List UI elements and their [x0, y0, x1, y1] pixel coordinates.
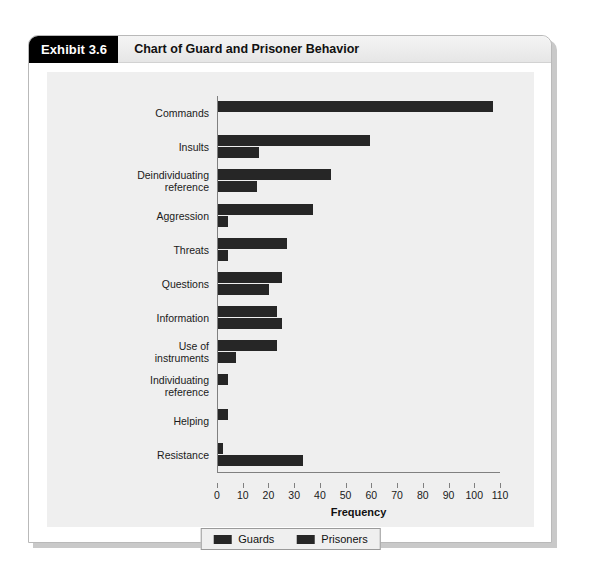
x-tick-mark: [500, 483, 501, 488]
chart-panel: CommandsInsultsDeindividuating reference…: [47, 72, 534, 527]
bar-row: Questions: [47, 267, 534, 301]
category-label: Information: [59, 312, 209, 324]
x-tick-mark: [346, 483, 347, 488]
x-tick-mark: [397, 483, 398, 488]
bar-prisoners: [218, 216, 228, 227]
bar-group: [218, 96, 518, 130]
x-tick-label: 30: [288, 489, 300, 501]
x-tick-mark: [371, 483, 372, 488]
x-tick-label: 20: [263, 489, 275, 501]
guards-swatch-icon: [213, 535, 231, 544]
x-tick-label: 50: [340, 489, 352, 501]
x-tick-label: 100: [466, 489, 484, 501]
category-label: Resistance: [59, 449, 209, 461]
x-tick-label: 10: [237, 489, 249, 501]
legend-label-prisoners: Prisoners: [321, 533, 367, 545]
bar-rows-container: CommandsInsultsDeindividuating reference…: [47, 96, 534, 472]
chart-legend: Guards Prisoners: [200, 528, 381, 550]
legend-item-guards: Guards: [213, 533, 274, 545]
bar-row: Information: [47, 301, 534, 335]
exhibit-page: Exhibit 3.6 Chart of Guard and Prisoner …: [0, 0, 596, 583]
bar-group: [218, 199, 518, 233]
legend-label-guards: Guards: [238, 533, 274, 545]
bar-row: Resistance: [47, 438, 534, 472]
category-label: Use of instruments: [59, 340, 209, 364]
exhibit-header: Exhibit 3.6 Chart of Guard and Prisoner …: [29, 36, 551, 63]
bar-guards: [218, 204, 313, 215]
category-label: Helping: [59, 415, 209, 427]
bar-group: [218, 438, 518, 472]
prisoners-swatch-icon: [296, 535, 314, 544]
bar-group: [218, 369, 518, 403]
bar-prisoners: [218, 250, 228, 261]
bar-row: Helping: [47, 404, 534, 438]
bar-group: [218, 130, 518, 164]
bar-group: [218, 267, 518, 301]
category-label: Individuating reference: [59, 374, 209, 398]
bar-prisoners: [218, 352, 236, 363]
x-tick-label: 110: [492, 489, 509, 501]
x-axis-label: Frequency: [217, 506, 500, 518]
bar-row: Use of instruments: [47, 335, 534, 369]
bar-row: Aggression: [47, 199, 534, 233]
x-tick-label: 80: [417, 489, 429, 501]
bar-guards: [218, 101, 493, 112]
bar-guards: [218, 135, 370, 146]
category-label: Questions: [59, 278, 209, 290]
x-tick-label: 40: [314, 489, 326, 501]
x-tick-mark: [243, 483, 244, 488]
bar-guards: [218, 409, 228, 420]
x-tick-label: 0: [214, 489, 220, 501]
bar-prisoners: [218, 147, 259, 158]
exhibit-number-tab: Exhibit 3.6: [29, 36, 118, 63]
category-label: Deindividuating reference: [59, 169, 209, 193]
bar-guards: [218, 340, 277, 351]
bar-row: Threats: [47, 233, 534, 267]
bar-group: [218, 164, 518, 198]
x-tick-label: 70: [391, 489, 403, 501]
exhibit-card: Exhibit 3.6 Chart of Guard and Prisoner …: [28, 35, 552, 543]
bar-guards: [218, 306, 277, 317]
bar-row: Deindividuating reference: [47, 164, 534, 198]
bar-group: [218, 404, 518, 438]
x-tick-mark: [294, 483, 295, 488]
bar-group: [218, 335, 518, 369]
x-tick-label: 90: [443, 489, 455, 501]
x-tick-mark: [474, 483, 475, 488]
bar-prisoners: [218, 318, 282, 329]
exhibit-title: Chart of Guard and Prisoner Behavior: [118, 36, 359, 62]
x-tick-mark: [449, 483, 450, 488]
bar-prisoners: [218, 284, 269, 295]
bar-guards: [218, 374, 228, 385]
bar-row: Commands: [47, 96, 534, 130]
bar-guards: [218, 169, 331, 180]
bar-group: [218, 233, 518, 267]
category-label: Commands: [59, 107, 209, 119]
category-label: Aggression: [59, 210, 209, 222]
bar-guards: [218, 443, 223, 454]
bar-group: [218, 301, 518, 335]
category-label: Threats: [59, 244, 209, 256]
legend-item-prisoners: Prisoners: [296, 533, 367, 545]
bar-guards: [218, 272, 282, 283]
x-tick-mark: [268, 483, 269, 488]
bar-row: Individuating reference: [47, 369, 534, 403]
bar-prisoners: [218, 455, 303, 466]
x-tick-mark: [423, 483, 424, 488]
category-label: Insults: [59, 141, 209, 153]
x-axis-line: [217, 472, 500, 473]
bar-guards: [218, 238, 287, 249]
x-tick-mark: [320, 483, 321, 488]
bar-row: Insults: [47, 130, 534, 164]
plot-area: CommandsInsultsDeindividuating reference…: [47, 88, 534, 472]
x-tick-mark: [217, 483, 218, 488]
bar-prisoners: [218, 181, 257, 192]
x-tick-label: 60: [366, 489, 378, 501]
